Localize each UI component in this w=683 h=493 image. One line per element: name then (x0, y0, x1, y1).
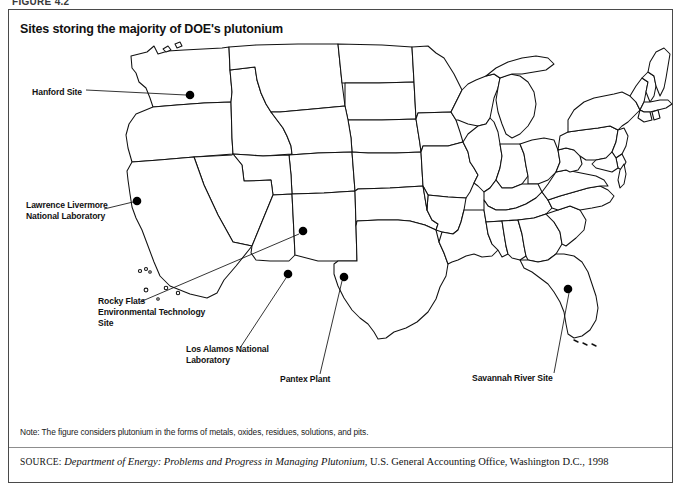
source-divider (9, 447, 672, 448)
state-new-york (568, 92, 640, 132)
leader-line-los-alamos (240, 278, 286, 348)
florida-keys (574, 340, 596, 346)
site-dot-savannah-river[interactable] (564, 285, 573, 294)
site-label-lawrence-livermore-line1: Lawrence Livermore (26, 200, 108, 210)
figure-number: FIGURE 4.2 (12, 0, 69, 7)
state-kansas (352, 152, 423, 191)
state-north-dakota (338, 44, 414, 83)
state-colorado (289, 152, 355, 194)
source-title: Department of Energy: Problems and Progr… (64, 456, 365, 467)
site-dot-rocky-flats[interactable] (299, 227, 308, 236)
state-michigan-upper (486, 56, 554, 78)
figure-title: Sites storing the majority of DOE's plut… (20, 22, 283, 36)
state-oregon (126, 102, 233, 162)
state-rhode-island (652, 110, 660, 120)
site-label-los-alamos-line1: Los Alamos National (186, 344, 269, 354)
state-washington-islets (175, 42, 182, 48)
state-new-mexico (292, 191, 357, 261)
site-label-savannah-river: Savannah River Site (472, 373, 553, 383)
island-dot (149, 271, 152, 274)
leader-line-pantex (320, 281, 342, 374)
state-florida (520, 254, 598, 338)
island-dot (138, 269, 141, 272)
state-south-dakota (345, 82, 416, 120)
figure-note: Note: The figure considers plutonium in … (20, 427, 368, 437)
island-dot (157, 298, 160, 301)
us-map-container: Hanford Site Lawrence Livermore National… (8, 40, 673, 420)
site-label-rocky-flats-line2: Environmental Technology (98, 307, 206, 317)
state-outlines-group (126, 42, 672, 346)
figure-source: SOURCE: Department of Energy: Problems a… (20, 456, 608, 467)
island-dot (144, 288, 148, 292)
leader-line-lawrence-livermore (104, 202, 133, 209)
source-publisher: , U.S. General Accounting Office, Washin… (365, 456, 609, 467)
site-label-lawrence-livermore-line2: National Laboratory (26, 211, 106, 221)
site-dot-los-alamos[interactable] (284, 270, 293, 279)
state-michigan-lower (496, 74, 536, 138)
site-dot-hanford[interactable] (186, 91, 195, 100)
state-washington (131, 46, 232, 107)
state-connecticut (638, 110, 652, 122)
island-dot (164, 286, 168, 290)
site-label-rocky-flats-line3: Site (98, 318, 114, 328)
site-label-pantex: Pantex Plant (280, 374, 331, 384)
island-dot (176, 291, 179, 294)
source-label: SOURCE: (20, 457, 62, 467)
us-map-svg: Hanford Site Lawrence Livermore National… (8, 40, 673, 420)
site-label-los-alamos-line2: Laboratory (186, 355, 230, 365)
island-dot (145, 268, 148, 271)
site-dot-lawrence-livermore[interactable] (133, 197, 142, 206)
site-label-hanford: Hanford Site (32, 87, 82, 97)
site-label-rocky-flats-line1: Rocky Flats (98, 296, 145, 306)
site-dot-pantex[interactable] (340, 273, 349, 282)
state-nebraska (348, 119, 421, 153)
